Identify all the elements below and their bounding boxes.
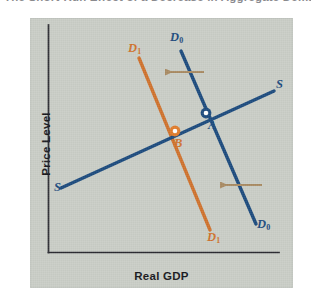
point-b-marker <box>170 126 181 137</box>
y-axis-label: Price Level <box>40 104 52 184</box>
figure-caption: The Short-Run Effect of a Decrease in Ag… <box>4 0 307 3</box>
chart-plot-area <box>30 18 293 288</box>
curve-label-s-left: S <box>54 181 61 194</box>
curve-label-d1-top-sub: 1 <box>137 47 141 56</box>
curve-label-d0-bottom-sub: 0 <box>266 223 270 232</box>
curve-label-d1-bottom: D1 <box>207 231 220 244</box>
curve-label-s-right: S <box>276 78 283 91</box>
curve-label-d0-top: D0 <box>170 31 183 44</box>
curve-label-d0-top-letter: D <box>170 30 179 44</box>
x-axis-label: Real GDP <box>30 270 293 282</box>
curve-label-d0-bottom-letter: D <box>257 217 266 231</box>
curve-demand-initial <box>181 51 256 224</box>
axis-lines <box>49 25 280 253</box>
curve-label-d0-top-sub: 0 <box>179 36 183 45</box>
curve-label-d1-top-letter: D <box>128 41 137 55</box>
figure-panel: Price Level Real GDP D1 D1 D0 D0 S S A B <box>30 18 293 288</box>
point-a-marker <box>201 108 212 119</box>
figure-caption-strip: The Short-Run Effect of a Decrease in Ag… <box>0 0 311 9</box>
point-a-label: A <box>208 119 216 132</box>
curve-label-d0-bottom: D0 <box>257 218 270 231</box>
point-b-label: B <box>174 137 182 150</box>
curve-label-d1-top: D1 <box>128 42 141 55</box>
curve-label-d1-bottom-letter: D <box>207 230 216 244</box>
curve-supply <box>61 91 274 188</box>
curve-label-d1-bottom-sub: 1 <box>216 236 220 245</box>
